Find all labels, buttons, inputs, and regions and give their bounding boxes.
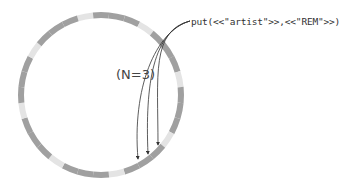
ring-partition-dark (78, 172, 93, 175)
ring-partition-dark (63, 18, 77, 24)
ring-partition-light (178, 72, 181, 87)
ring-partition-light (21, 103, 24, 118)
replication-factor-label: (N=3) (116, 67, 155, 82)
ring-partition-dark (39, 33, 50, 44)
ring-partition-dark (24, 57, 30, 71)
ring-partition-dark (152, 146, 163, 157)
ring-partition-dark (109, 15, 124, 18)
ring-partition-dark (24, 118, 30, 132)
ring-partition-dark (124, 166, 138, 172)
hash-ring (21, 15, 181, 175)
ring-partition-dark (50, 24, 63, 33)
ring-partition-dark (124, 18, 138, 24)
hash-ring-diagram (0, 0, 347, 183)
ring-partition-dark (39, 146, 50, 157)
ring-partition-dark (30, 133, 39, 146)
ring-partition-dark (172, 57, 178, 71)
ring-partition-dark (139, 157, 152, 166)
ring-partition-light (109, 172, 124, 175)
ring-partition-dark (172, 118, 178, 132)
ring-partition-dark (63, 166, 77, 172)
ring-partition-dark (163, 44, 172, 57)
ring-partition-light (30, 44, 39, 57)
ring-partition-light (163, 133, 172, 146)
ring-partition-light (78, 15, 93, 18)
ring-partition-light (139, 24, 152, 33)
ring-partition-light (50, 157, 63, 166)
put-operation-label: put(<<"artist">>,<<"REM">>) (191, 16, 340, 27)
ring-partition-dark (21, 72, 24, 87)
ring-partition-dark (178, 103, 181, 118)
